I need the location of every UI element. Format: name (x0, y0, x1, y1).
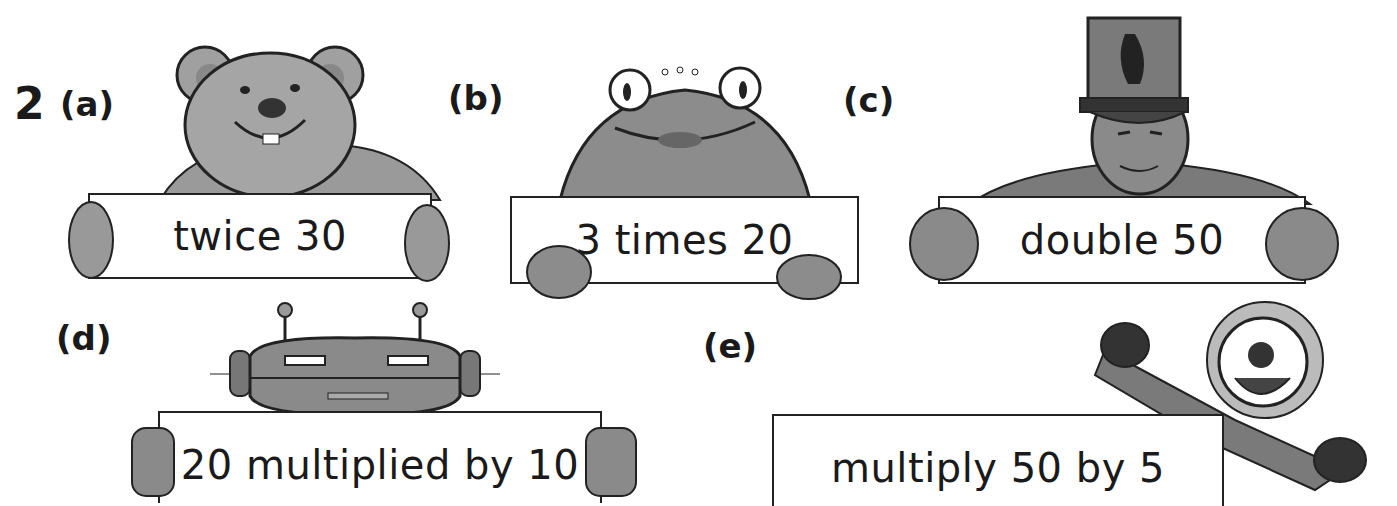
frog-right-hand-icon (774, 252, 844, 306)
sign-d-text: 20 multiplied by 10 (181, 442, 579, 488)
soldier-left-hand-icon (900, 204, 980, 288)
teddy-bear-icon (150, 40, 450, 204)
sign-c-text: double 50 (1020, 217, 1224, 263)
robot-right-fist-icon (582, 426, 642, 500)
robot-left-fist-icon (128, 426, 178, 500)
robot-icon (210, 296, 510, 415)
part-c-label: (c) (843, 80, 894, 120)
part-b-label: (b) (448, 78, 503, 118)
soldier-right-hand-icon (1262, 204, 1347, 288)
sign-e: multiply 50 by 5 (772, 414, 1224, 506)
soldier-icon (970, 14, 1310, 208)
sign-c: double 50 (938, 196, 1306, 284)
frog-left-hand-icon (524, 240, 594, 304)
bear-right-paw-icon (402, 203, 452, 287)
bear-left-paw-icon (66, 200, 116, 284)
part-a-label: (a) (60, 84, 114, 124)
sign-d: 20 multiplied by 10 (158, 411, 602, 503)
sign-e-text: multiply 50 by 5 (831, 445, 1165, 491)
question-number: 2 (14, 78, 45, 129)
sign-a-text: twice 30 (173, 213, 347, 259)
frog-icon (555, 60, 815, 204)
part-d-label: (d) (56, 318, 111, 358)
sign-a: twice 30 (88, 193, 432, 279)
part-e-label: (e) (703, 326, 757, 366)
sign-b-text: 3 times 20 (576, 217, 794, 263)
